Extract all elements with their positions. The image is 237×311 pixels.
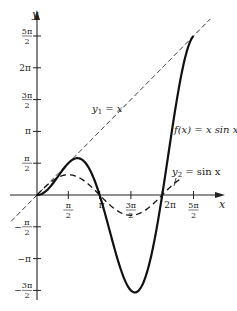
y-tick-label: 5π [22, 27, 32, 36]
x-tick-label: 3π [126, 201, 136, 210]
y2-label: y2 = sin x [171, 166, 221, 179]
svg-text:−: − [14, 285, 22, 295]
y1-label: y1 = x [91, 103, 123, 116]
y-tick-label: 2π [19, 63, 31, 73]
svg-text:2: 2 [191, 211, 196, 220]
svg-text:2: 2 [24, 164, 29, 173]
x-axis-label: x [219, 198, 226, 211]
y-tick-label: π [24, 154, 29, 163]
svg-text:2: 2 [24, 37, 29, 46]
svg-text:−: − [14, 222, 22, 232]
svg-text:2: 2 [66, 211, 71, 220]
f-label: f(x) = x sin x [173, 124, 237, 135]
y-axis-label: y [31, 8, 39, 21]
svg-text:2: 2 [24, 101, 29, 110]
ticks: π2π3π22π5π25π22π3π2ππ2−π2−π−3π2 [14, 27, 198, 300]
svg-text:2: 2 [24, 291, 29, 300]
curve-f [37, 36, 194, 292]
svg-text:2: 2 [24, 228, 29, 237]
annotations: y x y1 = x f(x) = x sin x y2 = sin x [31, 8, 237, 211]
y-tick-label: π [24, 218, 29, 227]
x-tick-label: 2π [164, 200, 176, 210]
curves [11, 19, 210, 293]
function-plot: π2π3π22π5π25π22π3π2ππ2−π2−π−3π2 y x y1 =… [0, 0, 237, 311]
y-tick-label: −π [18, 254, 32, 264]
y-tick-label: 3π [22, 281, 32, 290]
x-tick-label: π [66, 201, 71, 210]
y-tick-label: 3π [22, 91, 32, 100]
y-tick-label: π [25, 126, 31, 136]
x-tick-label: 5π [188, 201, 198, 210]
